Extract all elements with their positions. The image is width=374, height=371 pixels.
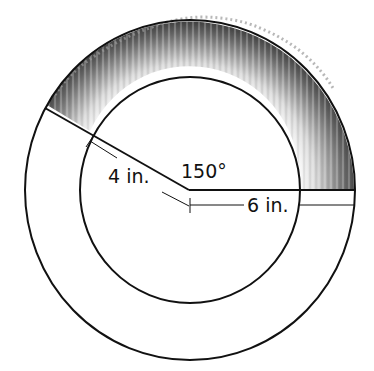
annulus-diagram: 150° 4 in. 6 in. bbox=[0, 0, 374, 371]
inner-radius-label: 4 in. bbox=[108, 165, 150, 187]
central-angle-label: 150° bbox=[181, 160, 227, 182]
diagram-canvas: 150° 4 in. 6 in. bbox=[0, 0, 374, 371]
outer-radius-label: 6 in. bbox=[247, 194, 289, 216]
